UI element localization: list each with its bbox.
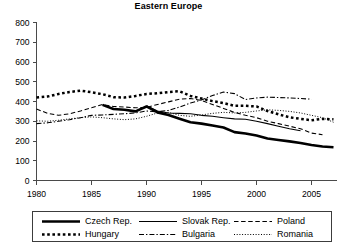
x-axis-ticks: 198019851990199520002005 [27, 181, 321, 199]
y-tick-label: 800 [15, 18, 30, 28]
legend-item[interactable]: Poland [233, 215, 305, 228]
legend-item[interactable]: Hungary [41, 228, 119, 241]
series-line [103, 105, 334, 147]
legend-label: Czech Rep. [85, 216, 132, 227]
legend-grid: Czech Rep.Slovak Rep.PolandHungaryBulgar… [33, 212, 331, 241]
x-tick-label: 2005 [302, 189, 321, 199]
series-line [37, 99, 323, 135]
legend-swatch-dashed [233, 216, 273, 227]
legend-swatch-fine-dotted [233, 229, 273, 240]
chart-legend: Czech Rep.Slovak Rep.PolandHungaryBulgar… [32, 211, 332, 242]
y-tick-label: 200 [15, 136, 30, 146]
legend-swatch-thick-dotted [41, 229, 81, 240]
legend-label: Poland [277, 216, 305, 227]
legend-item[interactable]: Romania [233, 228, 313, 241]
legend-item[interactable]: Slovak Rep. [138, 215, 231, 228]
legend-item[interactable]: Czech Rep. [41, 215, 132, 228]
x-tick-label: 2000 [247, 189, 266, 199]
y-tick-label: 500 [15, 77, 30, 87]
y-tick-label: 0 [25, 176, 30, 186]
y-tick-label: 400 [15, 97, 30, 107]
legend-item[interactable]: Bulgaria [138, 228, 215, 241]
x-tick-label: 1980 [27, 189, 46, 199]
legend-label: Romania [277, 229, 313, 240]
y-tick-label: 700 [15, 37, 30, 47]
series-line [37, 92, 312, 124]
plot-area: 0100200300400500600700800 19801985199019… [0, 0, 337, 210]
y-tick-label: 300 [15, 116, 30, 126]
x-tick-label: 1990 [137, 189, 156, 199]
x-tick-label: 1995 [192, 189, 211, 199]
legend-swatch-thin-solid [138, 216, 178, 227]
data-series-group [37, 91, 334, 148]
y-tick-label: 100 [15, 156, 30, 166]
legend-label: Hungary [85, 229, 119, 240]
legend-swatch-thick-solid [41, 216, 81, 227]
x-tick-label: 1985 [82, 189, 101, 199]
legend-swatch-dash-dot [138, 229, 178, 240]
y-tick-label: 600 [15, 57, 30, 67]
legend-label: Bulgaria [182, 229, 215, 240]
y-axis-ticks: 0100200300400500600700800 [15, 18, 36, 186]
legend-label: Slovak Rep. [182, 216, 231, 227]
chart-container: Eastern Europe 0100200300400500600700800… [0, 0, 337, 245]
